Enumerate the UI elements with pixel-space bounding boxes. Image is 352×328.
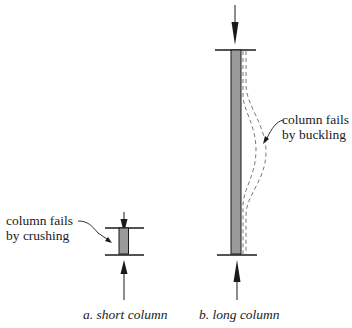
long-column-top-arrowhead xyxy=(232,22,239,45)
crushing-leader-line xyxy=(78,221,110,241)
crushing-annotation-line2: by crushing xyxy=(6,228,73,243)
buckled-shape-outer xyxy=(246,51,266,254)
short-column-group xyxy=(78,212,144,300)
long-column-bottom-arrowhead xyxy=(234,260,241,282)
short-column-body xyxy=(119,228,129,254)
crushing-annotation-line1: column fails xyxy=(6,213,73,228)
buckled-shape-inner xyxy=(243,51,256,254)
buckling-annotation-line2: by buckling xyxy=(282,127,349,142)
short-column-caption: a. short column xyxy=(83,307,167,323)
buckling-leader-arrowhead xyxy=(263,136,269,144)
buckling-annotation-line1: column fails xyxy=(282,112,349,127)
long-column-group xyxy=(215,5,283,300)
buckling-annotation: column fails by buckling xyxy=(282,112,349,142)
column-diagram xyxy=(0,0,352,328)
short-column-bottom-arrowhead xyxy=(121,260,128,274)
long-column-body xyxy=(231,50,241,254)
long-column-caption: b. long column xyxy=(199,307,280,323)
crushing-annotation: column fails by crushing xyxy=(6,213,73,243)
buckling-leader-line xyxy=(267,120,283,138)
